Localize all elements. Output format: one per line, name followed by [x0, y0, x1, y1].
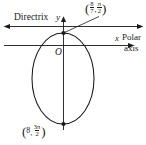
coordinate-comma: , — [30, 129, 32, 137]
coordinate-comma: , — [94, 6, 96, 14]
top-vertex-coordinate-label: ( 8 7 , π 2 ) — [85, 1, 106, 16]
r-numerator: 8 — [90, 1, 94, 8]
point-marker-top — [61, 31, 65, 35]
open-paren: ( — [85, 2, 89, 15]
point-marker-bottom — [61, 122, 65, 126]
directrix-label: Directrix — [14, 13, 48, 23]
theta-numerator: π — [97, 1, 101, 8]
x-axis-label: x — [115, 34, 119, 43]
polar-axis-label-line1: Polar — [122, 33, 141, 42]
theta-fraction: 3π 2 — [33, 124, 41, 139]
close-paren: ) — [102, 2, 106, 15]
ellipse-curve — [32, 33, 94, 124]
polar-conic-figure: Directrix y x Polar axis O ( 8 7 , π 2 )… — [0, 0, 146, 145]
theta-denominator: 2 — [97, 7, 101, 15]
leader-line — [65, 17, 100, 33]
r-fraction: 8 7 — [90, 1, 94, 16]
theta-numerator: 3π — [33, 124, 41, 131]
open-paren: ( — [22, 125, 26, 138]
y-axis-label: y — [56, 13, 60, 22]
origin-label: O — [55, 48, 62, 58]
theta-denominator: 2 — [35, 130, 39, 138]
r-denominator: 7 — [90, 7, 94, 15]
bottom-vertex-coordinate-label: ( 8 , 3π 2 ) — [22, 124, 46, 139]
polar-axis-label-line2: axis — [124, 44, 139, 53]
theta-fraction: π 2 — [97, 1, 101, 16]
polar-axis-line — [4, 43, 134, 48]
close-paren: ) — [41, 125, 45, 138]
